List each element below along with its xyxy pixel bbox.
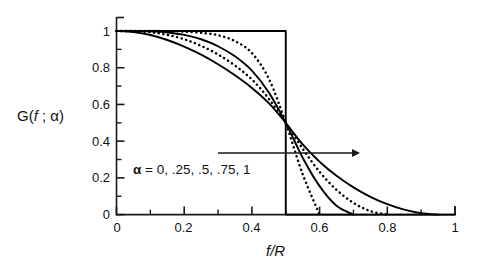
alpha-family-annotation: α = 0, .25, .5, .75, 1 <box>133 163 251 177</box>
y-axis-title-alpha: α <box>50 107 59 124</box>
x-axis-title-r: R <box>274 242 285 259</box>
x-tick-label-0-8: 0.8 <box>373 221 402 234</box>
y-tick-label-0-6: 0.6 <box>81 98 110 111</box>
y-axis-title-suffix: ) <box>59 107 64 124</box>
series-line-alpha-0-5 <box>117 31 354 215</box>
y-tick-label-0-8: 0.8 <box>81 61 110 74</box>
x-tick-label-1: 1 <box>446 221 464 234</box>
series-line-alpha-1 <box>117 31 439 215</box>
series-line-alpha-0-75 <box>117 31 388 215</box>
y-axis-ticks <box>117 31 125 215</box>
alpha-values: = 0, .25, .5, .75, 1 <box>141 162 250 177</box>
x-tick-label-0-4: 0.4 <box>237 221 266 234</box>
chart-series-group <box>117 31 456 215</box>
x-tick-label-0-2: 0.2 <box>169 221 198 234</box>
series-line-alpha-0-25 <box>117 31 320 215</box>
direction-arrow-icon <box>218 149 360 157</box>
x-axis-title: f/R <box>266 243 285 258</box>
y-tick-label-0: 0 <box>92 208 110 221</box>
x-tick-label-0: 0 <box>108 221 126 234</box>
y-tick-label-0-4: 0.4 <box>81 135 110 148</box>
y-axis-title: G(f ; α) <box>17 108 64 123</box>
y-tick-label-0-2: 0.2 <box>81 171 110 184</box>
y-tick-label-1: 1 <box>92 25 110 38</box>
y-axis-title-mid: ; <box>38 107 51 124</box>
chart-figure: 1 0.8 0.6 0.4 0.2 0 0 0.2 0.4 0.6 0.8 1 … <box>0 0 477 272</box>
y-axis-title-prefix: G( <box>17 107 34 124</box>
x-tick-label-0-6: 0.6 <box>305 221 334 234</box>
